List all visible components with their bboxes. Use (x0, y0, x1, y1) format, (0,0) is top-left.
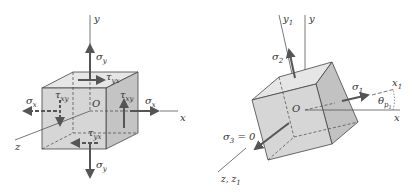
sigma-x-right-label: σx (145, 95, 156, 109)
left-stress-element: y x z O σy σy σx σx τyx τyx τxy τxy (14, 13, 186, 177)
sigma-x-left-label: σx (26, 95, 37, 109)
origin-label: O (92, 98, 100, 109)
x-axis-label: x (180, 112, 186, 123)
z-axis-label: z (14, 141, 21, 152)
x1-axis-label: x1 (392, 77, 402, 91)
z-axis-label: z,z1 (220, 174, 241, 187)
y1-axis-label: y1 (282, 13, 293, 27)
right-stress-element: y y1 x x1 z,z1 O θp1 σ1 σ2 σ3 = 0 (218, 13, 402, 187)
sigma-y-top-label: σy (96, 51, 108, 65)
sigma-2-label: σ2 (272, 51, 284, 65)
theta-arc (393, 90, 395, 110)
z-axis (218, 148, 246, 172)
theta-p1-label: θp1 (378, 95, 392, 110)
sigma-y-bottom-label: σy (96, 159, 108, 173)
x-axis-label: x (394, 112, 400, 123)
sigma-3-label: σ3 = 0 (223, 131, 256, 145)
y-axis-label: y (308, 13, 315, 24)
sigma-1-label: σ1 (352, 81, 363, 95)
origin-label: O (292, 103, 300, 114)
y-axis-label: y (93, 13, 100, 24)
stress-element-diagram: y x z O σy σy σx σx τyx τyx τxy τxy (0, 0, 413, 195)
